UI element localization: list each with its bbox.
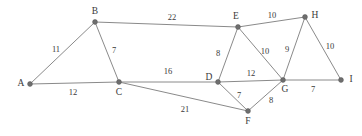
edge-weight-b-c: 7 [112, 45, 116, 55]
node-label-d: D [206, 72, 213, 82]
edge-weight-f-g: 8 [269, 95, 273, 105]
graph-svg: 111272216218127101089710 ABCDEFGHI [0, 0, 362, 136]
graph-node-h[interactable] [303, 15, 308, 20]
graph-node-a[interactable] [28, 82, 33, 87]
node-label-b: B [92, 6, 98, 16]
graph-node-b[interactable] [93, 20, 98, 25]
nodes-layer [28, 15, 344, 114]
node-label-c: C [116, 87, 122, 97]
graph-node-f[interactable] [246, 109, 251, 114]
edge-weight-d-f: 7 [237, 90, 241, 100]
graph-node-c[interactable] [117, 80, 122, 85]
edge-weight-g-h: 9 [285, 44, 289, 54]
edge-weight-a-b: 11 [52, 44, 60, 54]
node-label-f: F [245, 116, 250, 126]
edge-weight-h-i: 10 [326, 41, 335, 51]
node-label-a: A [18, 78, 25, 88]
edge-weight-b-e: 22 [168, 12, 177, 22]
graph-edge-d-e [218, 27, 238, 82]
edge-weight-e-g: 10 [261, 46, 270, 56]
graph-edge-h-i [305, 17, 341, 80]
edge-weight-d-g: 12 [247, 68, 256, 78]
graph-edge-d-g [218, 80, 283, 82]
node-label-e: E [233, 11, 239, 21]
node-label-i: I [349, 74, 352, 84]
node-label-h: H [312, 10, 319, 20]
edge-weight-e-h: 10 [268, 10, 277, 20]
graph-diagram: 111272216218127101089710 ABCDEFGHI [0, 0, 362, 136]
edge-weight-c-f: 21 [181, 104, 190, 114]
edge-weight-d-e: 8 [216, 48, 220, 58]
graph-edge-f-g [248, 80, 283, 111]
edge-weight-a-c: 12 [69, 87, 78, 97]
node-label-g: G [282, 84, 289, 94]
graph-edge-d-f [218, 82, 248, 111]
graph-node-e[interactable] [236, 25, 241, 30]
graph-node-d[interactable] [216, 80, 221, 85]
graph-edge-a-c [30, 82, 119, 84]
edge-weight-g-i: 7 [311, 84, 315, 94]
graph-edge-b-e [95, 22, 238, 27]
graph-edge-a-b [30, 22, 95, 84]
graph-node-i[interactable] [339, 78, 344, 83]
graph-node-g[interactable] [281, 78, 286, 83]
edge-weight-c-d: 16 [164, 66, 173, 76]
